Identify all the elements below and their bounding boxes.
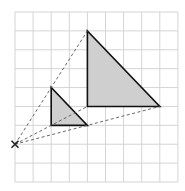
- enlargement-diagram: [0, 0, 185, 191]
